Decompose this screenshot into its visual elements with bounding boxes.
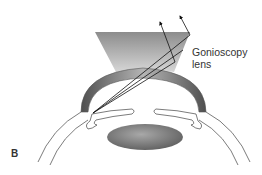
crystalline-lens: [107, 124, 183, 150]
gonioscopy-lens-label: Gonioscopy lens: [192, 46, 247, 70]
gonioscopy-diagram: Gonioscopy lens B: [0, 0, 262, 175]
gonioscopy-lens: [95, 32, 190, 72]
panel-letter: B: [11, 148, 18, 159]
label-line-1: Gonioscopy: [192, 46, 247, 58]
cornea: [81, 68, 206, 112]
label-line-2: lens: [192, 58, 247, 70]
diagram-canvas: [0, 0, 262, 175]
